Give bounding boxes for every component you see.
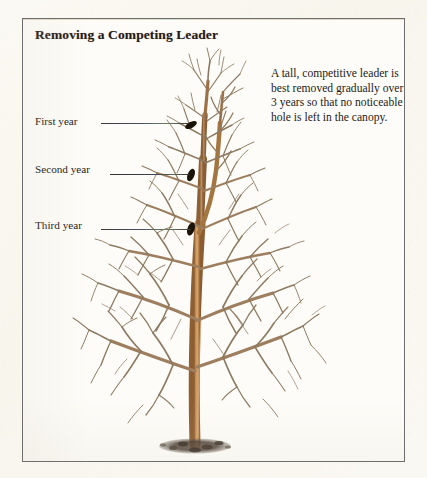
callout-third-year: Third year (35, 219, 82, 231)
callout-first-year: First year (35, 115, 78, 127)
callout-second-year-label: Second year (35, 163, 90, 175)
tree-base-mulch (159, 439, 231, 454)
page-canvas: Removing a Competing Leader A tall, comp… (0, 0, 427, 478)
leader-line-second-year (110, 174, 190, 175)
page-title: Removing a Competing Leader (35, 27, 218, 43)
description-text: A tall, competitive leader is best remov… (271, 67, 405, 125)
callout-third-year-label: Third year (35, 219, 82, 231)
callout-second-year: Second year (35, 163, 90, 175)
leader-line-third-year (101, 229, 191, 230)
illustration-frame: Removing a Competing Leader A tall, comp… (22, 18, 405, 462)
frame-top-fringe (23, 18, 404, 20)
cut-marks (184, 119, 198, 236)
leader-line-first-year (101, 123, 189, 124)
callout-first-year-label: First year (35, 115, 78, 127)
